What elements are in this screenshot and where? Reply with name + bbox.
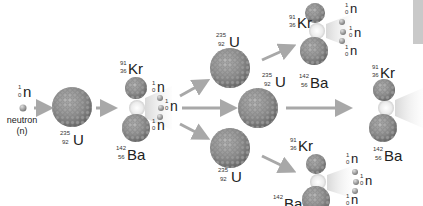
neutron-ball — [20, 105, 27, 112]
uranium-nucleus-2c — [210, 128, 250, 168]
uranium-nucleus-2a — [210, 48, 250, 88]
uranium-nucleus-1 — [52, 87, 92, 127]
fission-2b — [369, 79, 423, 142]
uranium-nucleus-2b — [238, 88, 278, 128]
neutron-caption: neutron (n) — [2, 116, 42, 136]
